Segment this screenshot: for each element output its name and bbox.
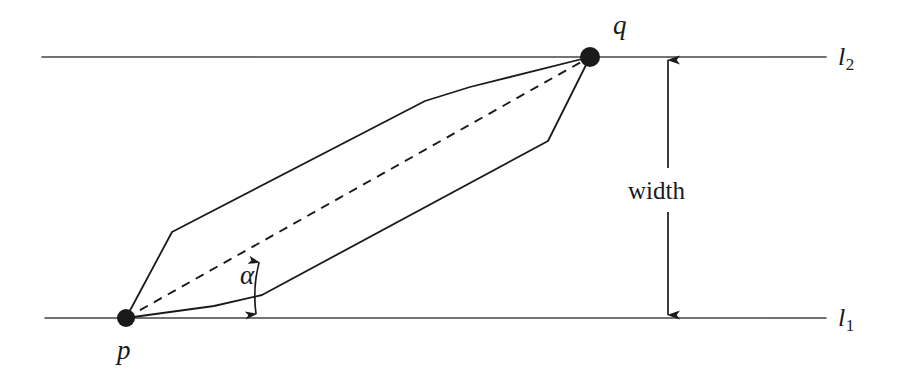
point-p-label: p	[117, 337, 131, 364]
point-p-marker	[117, 309, 135, 327]
line-l2-label-base: l	[838, 42, 845, 71]
line-l2-label: l2	[838, 44, 854, 73]
pq-dashed-segment	[126, 57, 590, 318]
line-l1-label: l1	[838, 305, 854, 334]
width-label: width	[628, 178, 685, 203]
line-l1-label-subscript: 1	[846, 316, 855, 335]
point-q-marker	[580, 47, 600, 67]
line-l2-label-subscript: 2	[846, 55, 855, 74]
figure-canvas	[0, 0, 908, 377]
alpha-angle-arc	[255, 263, 259, 315]
geometry-figure: p q l2 l1 width α	[0, 0, 908, 377]
line-l1-label-base: l	[838, 303, 845, 332]
alpha-label: α	[240, 262, 254, 289]
point-q-label: q	[613, 12, 627, 39]
